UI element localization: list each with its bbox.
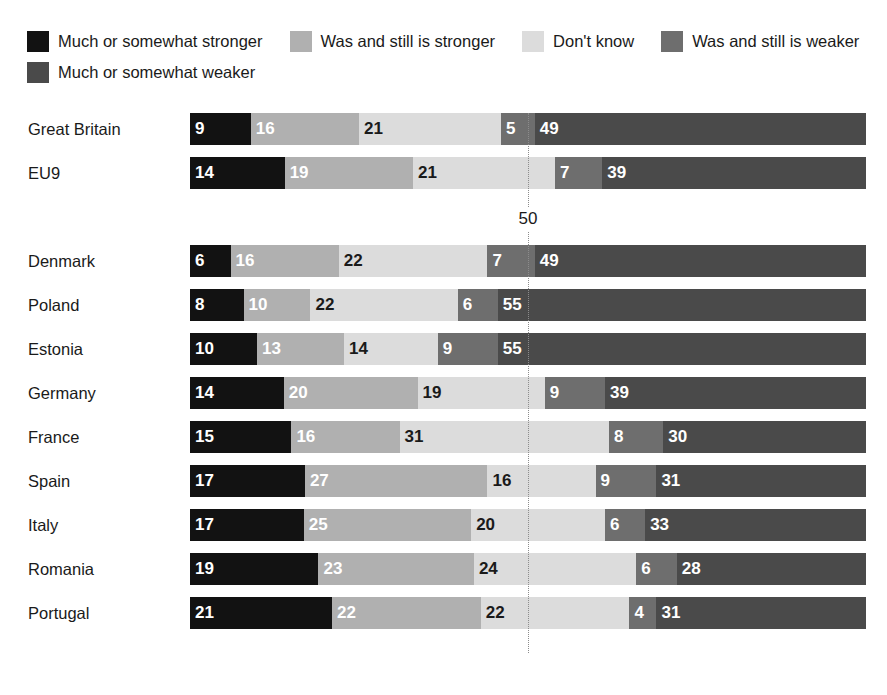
bar-row-label: Italy (28, 509, 58, 541)
bar-segment[interactable]: 6 (190, 245, 231, 277)
bar-segment[interactable]: 13 (257, 333, 344, 365)
bar-segment[interactable]: 21 (190, 597, 332, 629)
bar-segment-value: 22 (344, 245, 363, 277)
bar-segment[interactable]: 14 (190, 377, 284, 409)
bar-segment[interactable]: 49 (535, 245, 866, 277)
legend-swatch-icon (661, 31, 683, 52)
bar-segment-value: 19 (423, 377, 442, 409)
bar-segment-value: 6 (610, 509, 619, 541)
bar-segment[interactable]: 10 (244, 289, 311, 321)
bar-segment[interactable]: 30 (663, 421, 866, 453)
bar-segment[interactable]: 31 (400, 421, 610, 453)
bar-segment[interactable]: 23 (318, 553, 473, 585)
legend-label: Was and still is stronger (321, 33, 496, 50)
legend-item[interactable]: Was and still is stronger (290, 31, 523, 52)
bar-segment[interactable]: 55 (498, 289, 866, 321)
bar-segment[interactable]: 28 (677, 553, 866, 585)
bar-segment[interactable]: 31 (656, 465, 866, 497)
bar-segment[interactable]: 24 (474, 553, 636, 585)
bar-segment[interactable]: 5 (501, 113, 535, 145)
bar-row: EU9141921739 (0, 157, 887, 245)
bar-segment[interactable]: 17 (190, 465, 305, 497)
bar-segment[interactable]: 9 (438, 333, 498, 365)
bar-segment[interactable]: 4 (629, 597, 656, 629)
bar-segment-value: 13 (262, 333, 281, 365)
bar-segment[interactable]: 20 (471, 509, 605, 541)
bar-segment[interactable]: 6 (605, 509, 645, 541)
bar-segment[interactable]: 21 (413, 157, 555, 189)
bar-segment-value: 15 (195, 421, 214, 453)
legend-item[interactable]: Don't know (522, 31, 661, 52)
bar-segment[interactable]: 55 (498, 333, 866, 365)
bar-segment[interactable]: 22 (332, 597, 481, 629)
bar-segment[interactable]: 39 (602, 157, 866, 189)
bar-segment[interactable]: 7 (555, 157, 602, 189)
legend-row: Much or somewhat weaker (27, 57, 887, 88)
bar-row-label: Great Britain (28, 113, 121, 145)
bar-segment-value: 55 (503, 289, 522, 321)
bar-segment[interactable]: 22 (310, 289, 457, 321)
bar-segment[interactable]: 8 (609, 421, 663, 453)
bar-segment[interactable]: 9 (545, 377, 605, 409)
bar-segment[interactable]: 14 (344, 333, 438, 365)
stacked-bar-chart: Great Britain91621549EU9141921739Denmark… (0, 113, 887, 641)
bar-segment[interactable]: 33 (645, 509, 866, 541)
bar-row-label: Spain (28, 465, 70, 497)
bar-segment[interactable]: 9 (596, 465, 657, 497)
bar-segment[interactable]: 20 (284, 377, 418, 409)
bar-segment-value: 19 (195, 553, 214, 585)
bar-segment-value: 21 (364, 113, 383, 145)
bar-segment-value: 22 (337, 597, 356, 629)
bar-segment[interactable]: 25 (304, 509, 471, 541)
bar-row: Great Britain91621549 (0, 113, 887, 157)
bar-segment-value: 7 (560, 157, 569, 189)
bar-segment[interactable]: 6 (458, 289, 498, 321)
bar-segment-value: 22 (486, 597, 505, 629)
legend-item[interactable]: Much or somewhat weaker (27, 62, 282, 83)
bar-segment[interactable]: 19 (190, 553, 318, 585)
bar-segment[interactable]: 21 (359, 113, 501, 145)
legend-swatch-icon (27, 62, 49, 83)
bar-row: Portugal212222431 (0, 597, 887, 641)
bar-row: Estonia101314955 (0, 333, 887, 377)
bar-segment[interactable]: 9 (190, 113, 251, 145)
bar-segment[interactable]: 14 (190, 157, 285, 189)
bar-segment-value: 5 (506, 113, 515, 145)
bar-segment-value: 23 (323, 553, 342, 585)
bar-segment[interactable]: 16 (231, 245, 339, 277)
bar-segment-value: 24 (479, 553, 498, 585)
bar-row-label: Denmark (28, 245, 95, 277)
bar-segment[interactable]: 27 (305, 465, 488, 497)
bar-segment-value: 20 (476, 509, 495, 541)
bar-segment[interactable]: 22 (339, 245, 488, 277)
legend-swatch-icon (27, 31, 49, 52)
bar-segment[interactable]: 49 (535, 113, 866, 145)
bar-row: Italy172520633 (0, 509, 887, 553)
legend-item[interactable]: Was and still is weaker (661, 31, 886, 52)
chart-legend: Much or somewhat strongerWas and still i… (27, 26, 887, 88)
bar-segment[interactable]: 19 (285, 157, 413, 189)
bar-segment[interactable]: 8 (190, 289, 244, 321)
bar-segment[interactable]: 19 (418, 377, 545, 409)
clipped-top-text-strip (0, 0, 887, 12)
bar-segment-value: 6 (641, 553, 650, 585)
bar-segment[interactable]: 22 (481, 597, 630, 629)
bar-segment[interactable]: 15 (190, 421, 291, 453)
bar-segment-value: 16 (236, 245, 255, 277)
legend-item[interactable]: Much or somewhat stronger (27, 31, 290, 52)
bar-segment[interactable]: 6 (636, 553, 677, 585)
bar-segment[interactable]: 31 (656, 597, 866, 629)
bar-segment-value: 21 (195, 597, 214, 629)
bar-segment[interactable]: 17 (190, 509, 304, 541)
bar-segment[interactable]: 39 (605, 377, 866, 409)
bar-segment-value: 31 (405, 421, 424, 453)
bar-row-label: Romania (28, 553, 94, 585)
bar-segment[interactable]: 16 (251, 113, 359, 145)
bar-row: France151631830 (0, 421, 887, 465)
bar-segment[interactable]: 16 (487, 465, 595, 497)
bar-segment[interactable]: 16 (291, 421, 399, 453)
bar-segment-value: 14 (349, 333, 368, 365)
bar-segment[interactable]: 10 (190, 333, 257, 365)
bar-segment-value: 22 (315, 289, 334, 321)
legend-label: Was and still is weaker (692, 33, 859, 50)
